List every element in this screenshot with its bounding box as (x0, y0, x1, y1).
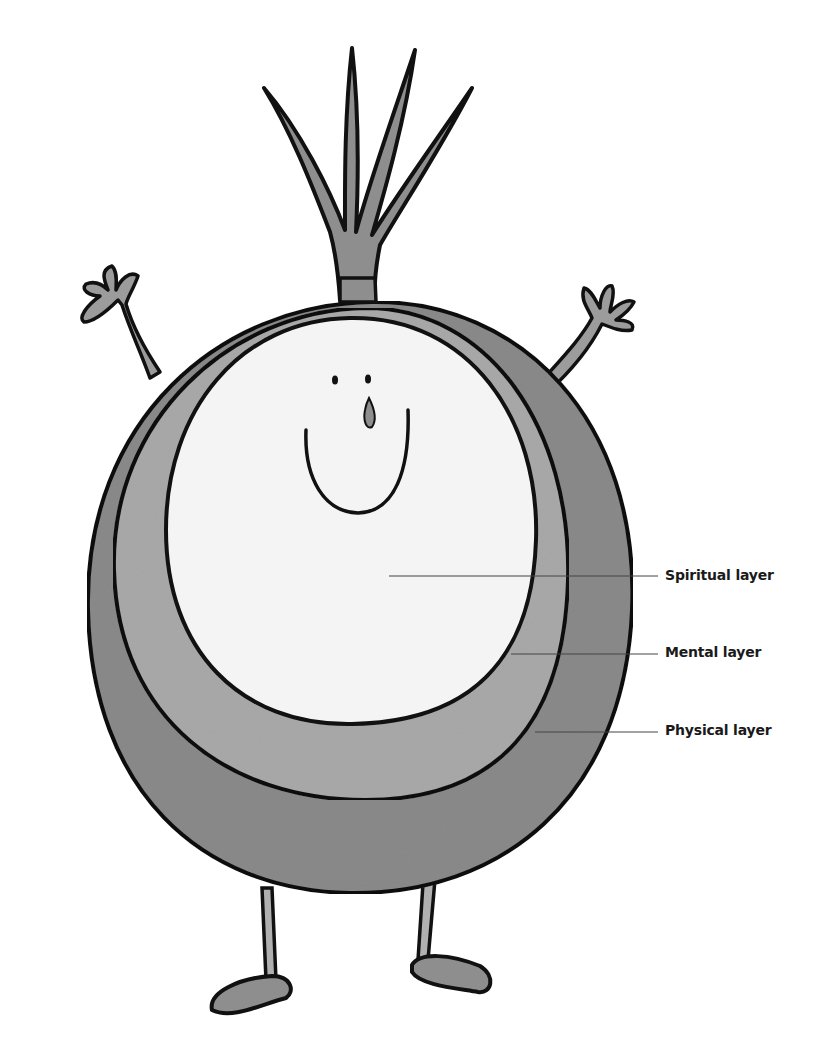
spiritual-layer (166, 318, 536, 724)
label-physical-layer: Physical layer (665, 722, 771, 738)
label-spiritual-layer: Spiritual layer (665, 567, 774, 583)
feet (212, 956, 491, 1013)
label-mental-layer: Mental layer (665, 644, 761, 660)
stem-base (340, 278, 376, 302)
left-eye (332, 376, 338, 385)
onion-diagram (0, 0, 817, 1056)
right-eye (365, 375, 371, 384)
left-arm (82, 266, 160, 378)
sprout-leaves (264, 48, 472, 300)
